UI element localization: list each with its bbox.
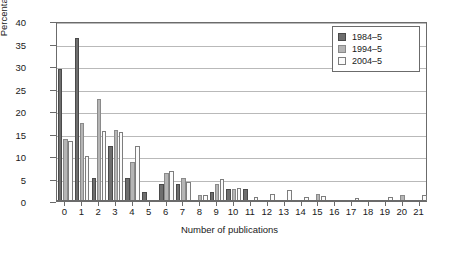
bar <box>215 184 220 201</box>
bar <box>63 139 68 201</box>
y-tick-mark <box>50 112 56 113</box>
bar <box>176 184 181 201</box>
bar <box>125 178 130 201</box>
bar <box>169 171 174 201</box>
y-tick-mark <box>50 157 56 158</box>
legend-swatch-icon <box>338 45 346 53</box>
bar-group <box>142 23 157 201</box>
x-tick-mark <box>81 202 82 206</box>
bar <box>108 146 113 201</box>
bar-group <box>176 23 191 201</box>
legend-item: 1984–5 <box>338 31 414 42</box>
legend: 1984–5 1994–5 2004–5 <box>332 26 420 72</box>
bar-group <box>75 23 90 201</box>
x-tick-mark <box>182 202 183 206</box>
bar-group <box>277 23 292 201</box>
x-tick-mark <box>419 202 420 206</box>
x-tick-mark <box>199 202 200 206</box>
bar <box>220 179 225 201</box>
bar <box>97 99 102 201</box>
x-tick-mark <box>216 202 217 206</box>
bar <box>80 123 85 201</box>
x-tick-mark <box>368 202 369 206</box>
x-tick-mark <box>98 202 99 206</box>
bar-group <box>108 23 123 201</box>
y-tick-label: 40 <box>0 17 26 28</box>
bar-group <box>260 23 275 201</box>
x-tick-mark <box>301 202 302 206</box>
y-tick-mark <box>50 135 56 136</box>
x-tick-mark <box>284 202 285 206</box>
bar-group <box>311 23 326 201</box>
bar <box>75 38 80 201</box>
bar <box>58 69 63 201</box>
x-tick-mark <box>115 202 116 206</box>
bar-group <box>210 23 225 201</box>
y-tick-label: 10 <box>0 152 26 163</box>
bar <box>119 132 124 201</box>
bar-chart: Percentage Number of publications 051015… <box>0 0 459 264</box>
bar <box>130 162 135 201</box>
bar-group <box>294 23 309 201</box>
legend-item: 2004–5 <box>338 55 414 66</box>
bar-group <box>243 23 258 201</box>
y-tick-mark <box>50 22 56 23</box>
bar <box>85 156 90 201</box>
y-tick-mark <box>50 202 56 203</box>
x-tick-mark <box>250 202 251 206</box>
bar <box>164 173 169 201</box>
y-tick-mark <box>50 180 56 181</box>
x-tick-mark <box>166 202 167 206</box>
x-tick-mark <box>267 202 268 206</box>
legend-item-label: 2004–5 <box>352 56 382 66</box>
bar-group <box>193 23 208 201</box>
x-tick-mark <box>351 202 352 206</box>
x-tick-mark <box>149 202 150 206</box>
x-tick-mark <box>334 202 335 206</box>
x-tick-mark <box>233 202 234 206</box>
bar <box>186 182 191 201</box>
legend-swatch-icon <box>338 33 346 41</box>
x-tick-mark <box>317 202 318 206</box>
x-axis-title: Number of publications <box>0 224 459 235</box>
bar-group <box>125 23 140 201</box>
bar <box>68 141 73 201</box>
legend-item-label: 1994–5 <box>352 44 382 54</box>
x-tick-mark <box>132 202 133 206</box>
y-tick-label: 15 <box>0 129 26 140</box>
legend-item: 1994–5 <box>338 43 414 54</box>
y-tick-mark <box>50 45 56 46</box>
y-tick-label: 25 <box>0 84 26 95</box>
y-tick-label: 5 <box>0 174 26 185</box>
y-tick-label: 0 <box>0 197 26 208</box>
x-tick-mark <box>385 202 386 206</box>
bar-group <box>159 23 174 201</box>
legend-item-label: 1984–5 <box>352 32 382 42</box>
bar <box>114 130 119 201</box>
x-tick-mark <box>64 202 65 206</box>
bar <box>159 184 164 201</box>
y-tick-label: 20 <box>0 107 26 118</box>
y-tick-label: 30 <box>0 62 26 73</box>
bar <box>135 146 140 201</box>
bar-group <box>92 23 107 201</box>
x-tick-label: 21 <box>408 206 430 217</box>
legend-swatch-icon <box>338 57 346 65</box>
bar-group <box>58 23 73 201</box>
bar-group <box>226 23 241 201</box>
bar <box>102 131 107 201</box>
bar <box>92 178 97 201</box>
bar <box>181 178 186 201</box>
bar <box>237 188 242 202</box>
y-tick-mark <box>50 90 56 91</box>
y-tick-label: 35 <box>0 39 26 50</box>
x-tick-mark <box>402 202 403 206</box>
x-axis-line <box>57 200 426 201</box>
y-tick-mark <box>50 67 56 68</box>
